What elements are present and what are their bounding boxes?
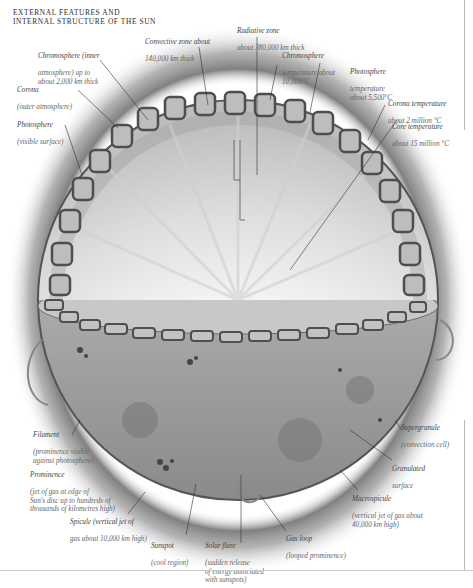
label-photosphere-temperature: Photosphere temperature about 5,500°C [350,60,392,110]
label-solar-flare: Solar flare (sudden release of energy as… [205,534,264,588]
label-core-temperature: Core temperature about 15 million °C [392,115,449,157]
label-gas-loop: Gas loop (looped prominence) [286,527,346,569]
right-margin-rule-top [464,0,465,130]
title-line-2: internal structure of the sun [13,18,156,27]
label-chromosphere-temperature: Chromosphere temperature about 10,000°C [282,44,335,94]
label-supergranule: Supergranule (convection cell) [401,416,449,458]
label-photosphere: Photosphere (visible surface) [17,113,64,155]
label-granulated-surface: Granulated surface [392,457,425,499]
label-spicule: Spicule (vertical jet of gas about 10,00… [70,510,147,552]
bottom-rule [0,570,473,571]
label-convective-zone: Convective zone about 140,000 km thick [145,30,210,72]
diagram-title: External features and internal structure… [13,9,156,26]
right-margin-rule-bottom [464,420,465,570]
